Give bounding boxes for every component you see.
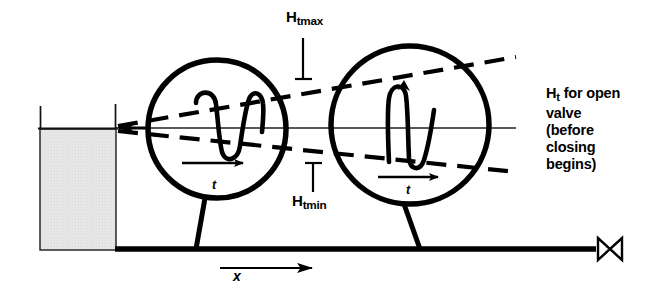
- label-h-t-min-subscript: tmin: [303, 198, 327, 211]
- label-h-t-open-base: H: [546, 85, 556, 101]
- hgl-envelope-max-line: [118, 57, 516, 126]
- label-h-t-open-line5: begins): [546, 156, 620, 173]
- label-h-t-max-base: H: [286, 8, 297, 25]
- label-h-t-max: Htmax: [286, 8, 323, 28]
- label-h-t-open-line1: Ht for open: [546, 85, 620, 105]
- hgl-envelope-min-line: [118, 131, 516, 172]
- surge-tank-stem-right: [404, 204, 420, 249]
- label-h-t-open-line3: (before: [546, 122, 620, 139]
- valve-icon[interactable]: [598, 238, 622, 260]
- label-h-t-max-subscript: tmax: [297, 14, 323, 27]
- label-h-t-open-line2: valve: [546, 105, 620, 122]
- label-h-t-min: Htmin: [292, 192, 327, 212]
- reservoir-group: [38, 104, 118, 250]
- label-time-downstream: t: [406, 183, 410, 198]
- label-h-t-open-line4: closing: [546, 139, 620, 156]
- reservoir-texture: [41, 130, 115, 249]
- surge-tank-diagram: Htmax Htmin Ht for openvalve(beforeclosi…: [0, 0, 672, 296]
- surge-tank-stem-left: [196, 198, 205, 249]
- label-h-t-open-valve: Ht for openvalve(beforeclosingbegins): [546, 85, 620, 173]
- label-h-t-min-base: H: [292, 192, 303, 209]
- label-x-axis: x: [233, 268, 241, 285]
- label-h-t-open-rest: for open: [560, 85, 620, 101]
- label-time-upstream: t: [212, 178, 216, 193]
